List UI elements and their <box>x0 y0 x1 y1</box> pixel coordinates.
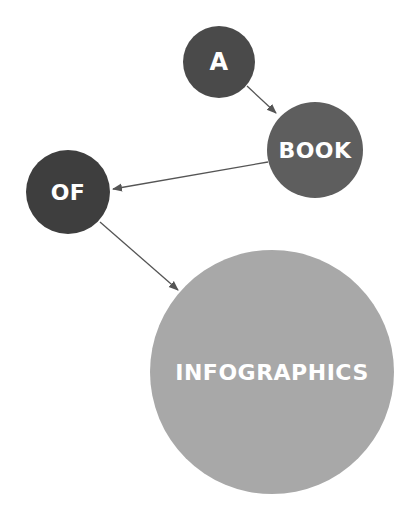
arrow-a-to-book <box>247 86 276 113</box>
node-of: OF <box>26 150 110 234</box>
arrow-book-to-of <box>113 162 268 189</box>
arrow-of-to-infographics <box>100 222 178 290</box>
node-book: BOOK <box>267 102 363 198</box>
node-a: A <box>183 26 255 98</box>
node-label: BOOK <box>278 138 351 163</box>
node-label: A <box>209 48 228 76</box>
node-infographics: INFOGRAPHICS <box>150 250 394 494</box>
node-label: INFOGRAPHICS <box>175 360 368 385</box>
node-label: OF <box>51 180 86 205</box>
